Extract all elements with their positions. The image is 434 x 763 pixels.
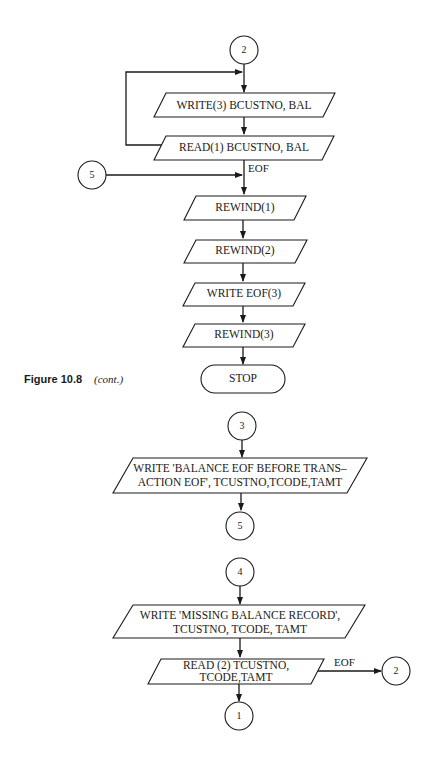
- connector-5-side: 5: [78, 161, 106, 189]
- connector-2-right: 2: [382, 657, 410, 685]
- connector-5-bottom: 5: [226, 512, 254, 540]
- svg-text:REWIND(3): REWIND(3): [214, 328, 274, 341]
- svg-text:TCODE,TAMT: TCODE,TAMT: [200, 671, 273, 684]
- terminal-stop: STOP: [201, 365, 285, 393]
- svg-text:REWIND(1): REWIND(1): [215, 201, 275, 214]
- eof-label-lower: EOF: [334, 656, 355, 668]
- io-read2-tcustno-tcode-tamt: READ (2) TCUSTNO, TCODE,TAMT: [148, 659, 324, 684]
- figure-continued-note: (cont.): [94, 373, 123, 385]
- svg-text:2: 2: [242, 44, 247, 55]
- connector-3: 3: [228, 412, 256, 440]
- io-write3-bcustno-bal: WRITE(3) BCUSTNO, BAL: [154, 93, 335, 117]
- svg-text:WRITE 'BALANCE EOF BEFORE TRAN: WRITE 'BALANCE EOF BEFORE TRANS–: [133, 462, 347, 474]
- svg-text:2: 2: [394, 665, 399, 676]
- io-rewind2: REWIND(2): [184, 240, 307, 263]
- svg-text:3: 3: [240, 420, 245, 431]
- io-read1-bcustno-bal: READ(1) BCUSTNO, BAL: [154, 136, 334, 160]
- io-write-eof3: WRITE EOF(3): [183, 283, 305, 306]
- svg-text:WRITE 'MISSING BALANCE RECORD': WRITE 'MISSING BALANCE RECORD',: [140, 609, 340, 622]
- svg-text:REWIND(2): REWIND(2): [215, 244, 275, 257]
- svg-text:4: 4: [238, 566, 243, 577]
- svg-text:TCUSTNO, TCODE, TAMT: TCUSTNO, TCODE, TAMT: [173, 623, 307, 636]
- connector-2-top: 2: [230, 36, 258, 64]
- svg-text:WRITE(3) BCUSTNO, BAL: WRITE(3) BCUSTNO, BAL: [176, 99, 311, 112]
- svg-text:1: 1: [237, 710, 242, 721]
- svg-text:5: 5: [238, 520, 243, 531]
- svg-text:STOP: STOP: [229, 372, 257, 384]
- io-rewind1: REWIND(1): [184, 196, 306, 220]
- figure-number: Figure 10.8: [24, 373, 82, 385]
- io-write-balance-eof-before-transaction-eof: WRITE 'BALANCE EOF BEFORE TRANS– ACTION …: [113, 458, 367, 493]
- io-rewind3: REWIND(3): [183, 324, 305, 347]
- figure-caption: Figure 10.8(cont.): [24, 373, 123, 385]
- svg-text:READ(1) BCUSTNO, BAL: READ(1) BCUSTNO, BAL: [179, 141, 309, 154]
- svg-text:5: 5: [90, 169, 95, 180]
- io-write-missing-balance-record: WRITE 'MISSING BALANCE RECORD', TCUSTNO,…: [113, 605, 365, 638]
- svg-text:ACTION EOF', TCUSTNO,TCODE,TAM: ACTION EOF', TCUSTNO,TCODE,TAMT: [138, 476, 342, 489]
- svg-text:WRITE EOF(3): WRITE EOF(3): [207, 287, 282, 300]
- eof-label-upper: EOF: [248, 162, 269, 174]
- connector-1: 1: [225, 702, 253, 730]
- connector-4: 4: [226, 558, 254, 586]
